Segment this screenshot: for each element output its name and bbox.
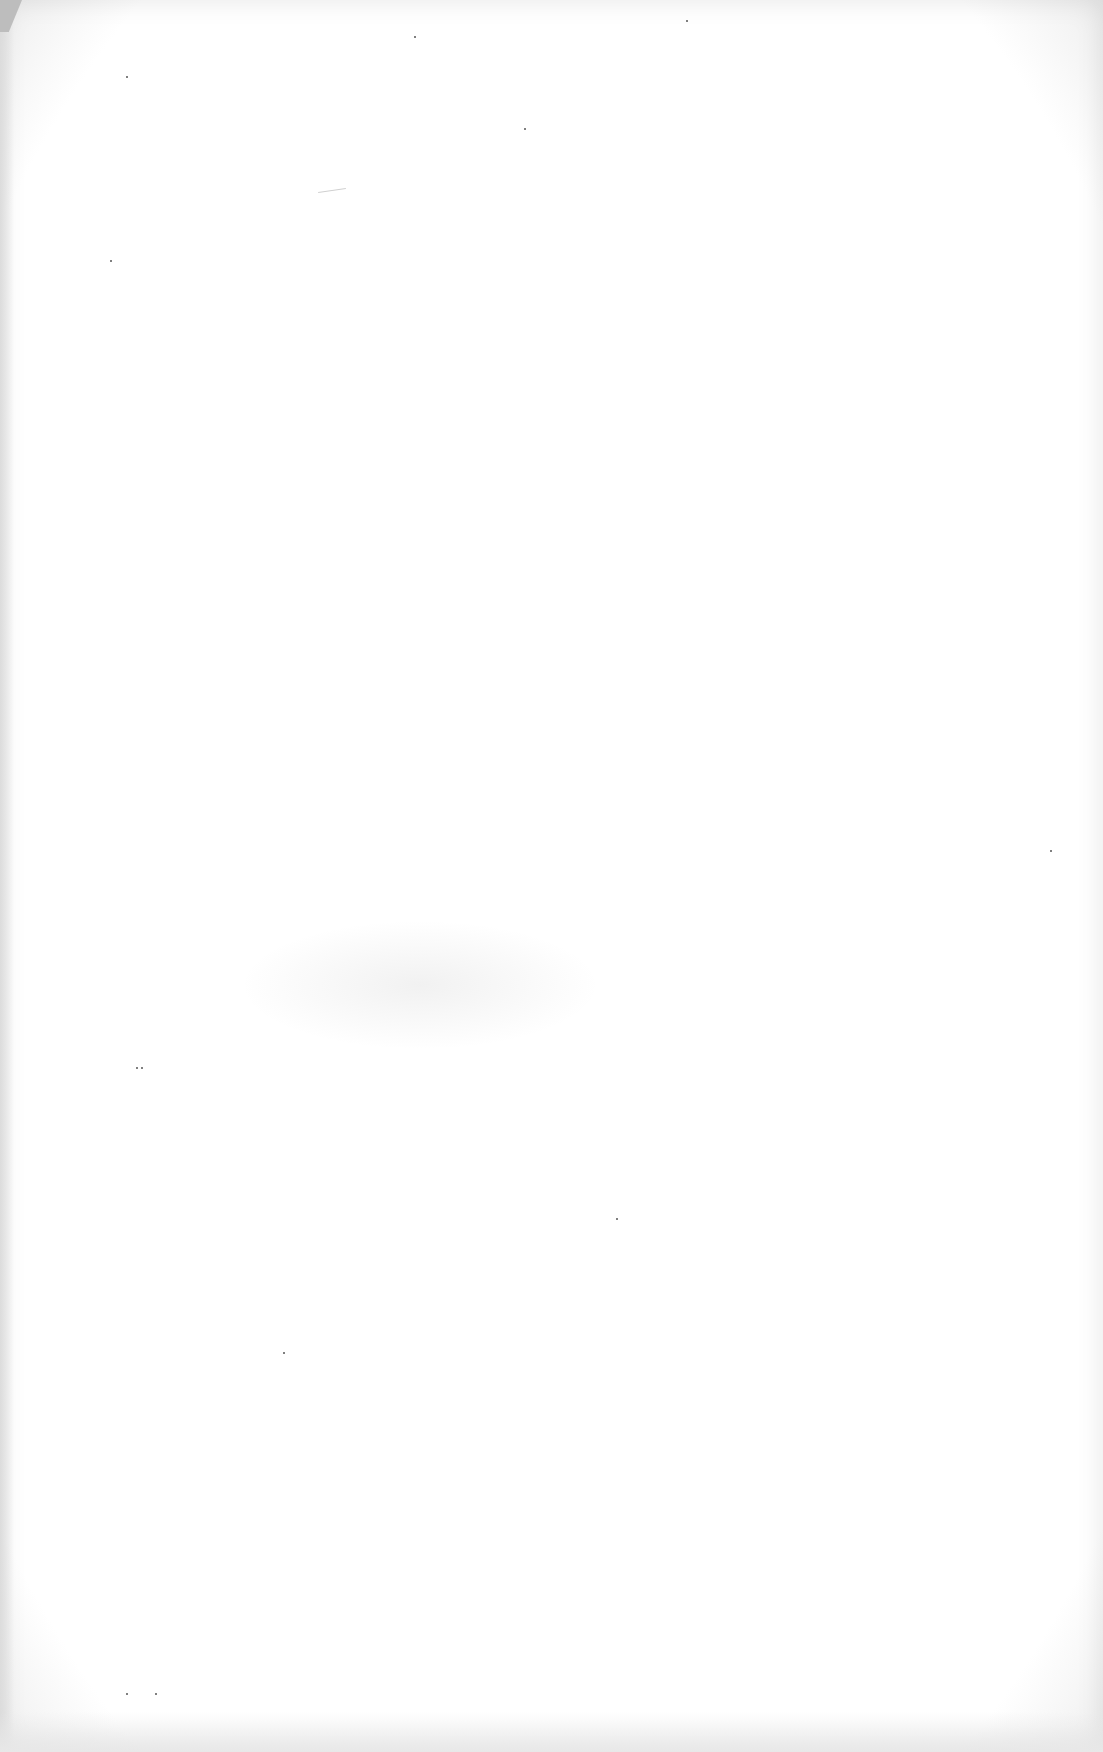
- speckle: [110, 260, 112, 262]
- speckle: [155, 1693, 157, 1695]
- speckle: [126, 76, 128, 78]
- speckle: [616, 1218, 618, 1220]
- speckle: [686, 20, 688, 22]
- page-bottom-edge-shadow: [0, 1712, 1103, 1752]
- speckle: [141, 1067, 143, 1069]
- page-left-edge-shadow: [0, 0, 14, 1752]
- speckle: [136, 1067, 138, 1069]
- speckle: [1050, 850, 1052, 852]
- speckle: [414, 36, 416, 38]
- scan-hairline: [318, 188, 346, 193]
- speckle: [126, 1693, 128, 1695]
- scan-smudge: [240, 920, 600, 1050]
- speckle: [283, 1352, 285, 1354]
- blank-scanned-page: [0, 0, 1103, 1752]
- speckle: [524, 128, 526, 130]
